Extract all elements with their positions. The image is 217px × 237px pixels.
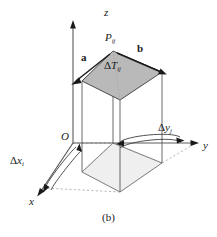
top-face-polygon <box>82 51 162 100</box>
figure-caption: (b) <box>0 212 217 223</box>
delta-x-subscript: i <box>22 160 24 167</box>
patch-area-label: ΔTij <box>104 60 121 71</box>
delta-y-label: Δyj <box>158 122 172 133</box>
delta-x-label: Δxi <box>10 155 24 166</box>
figure-container: z y x O Pij a b ΔTij Δyj Δxi (b) <box>0 0 217 237</box>
vector-a-label: a <box>81 52 87 63</box>
axis-label-y: y <box>203 140 208 151</box>
delta-y-measure <box>116 134 185 148</box>
delta-y-subscript: j <box>170 127 172 134</box>
patch-area-subscript: ij <box>117 65 121 72</box>
delta-x-measure <box>43 144 82 193</box>
vector-b-label: b <box>137 43 143 54</box>
base-face-polygon <box>82 143 162 192</box>
axis-label-z: z <box>104 7 108 18</box>
point-label-p-subscript: ij <box>112 37 116 44</box>
point-label-p-base: P <box>105 31 112 43</box>
x-axis <box>37 143 73 197</box>
point-label-p: Pij <box>105 32 115 43</box>
origin-label: O <box>61 131 69 142</box>
axis-label-x: x <box>29 196 34 207</box>
